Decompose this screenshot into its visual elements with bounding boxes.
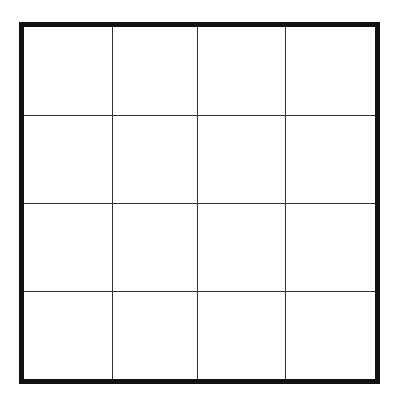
- grid-row-divider: [24, 203, 375, 204]
- grid-row-divider: [24, 291, 375, 292]
- grid-row-divider: [24, 115, 375, 116]
- grid-4x4: [19, 22, 380, 384]
